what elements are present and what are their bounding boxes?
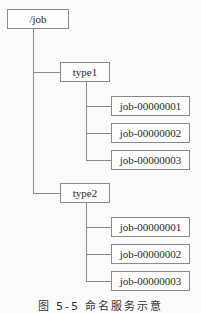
type1-branch-line bbox=[33, 72, 60, 73]
figure-caption: 图 5-5 命名服务示意 bbox=[0, 297, 201, 313]
root-connector-line bbox=[33, 29, 34, 194]
type2-connector-line bbox=[86, 203, 87, 282]
type2-job-node-2: job-00000002 bbox=[111, 244, 190, 264]
type2-job1-branch-line bbox=[86, 227, 111, 228]
root-node: /job bbox=[7, 9, 69, 29]
type1-job-node-2: job-00000002 bbox=[111, 123, 190, 143]
type1-node: type1 bbox=[60, 62, 110, 82]
type1-job-node-1: job-00000001 bbox=[111, 96, 190, 116]
type1-job2-branch-line bbox=[86, 133, 111, 134]
type2-branch-line bbox=[33, 193, 60, 194]
type1-job1-branch-line bbox=[86, 106, 111, 107]
type2-job-node-1: job-00000001 bbox=[111, 217, 190, 237]
type1-connector-line bbox=[86, 82, 87, 161]
type2-job3-branch-line bbox=[86, 281, 111, 282]
type1-job-node-3: job-00000003 bbox=[111, 150, 190, 170]
type2-job2-branch-line bbox=[86, 254, 111, 255]
type2-node: type2 bbox=[60, 183, 110, 203]
type2-job-node-3: job-00000003 bbox=[111, 271, 190, 291]
type1-job3-branch-line bbox=[86, 160, 111, 161]
